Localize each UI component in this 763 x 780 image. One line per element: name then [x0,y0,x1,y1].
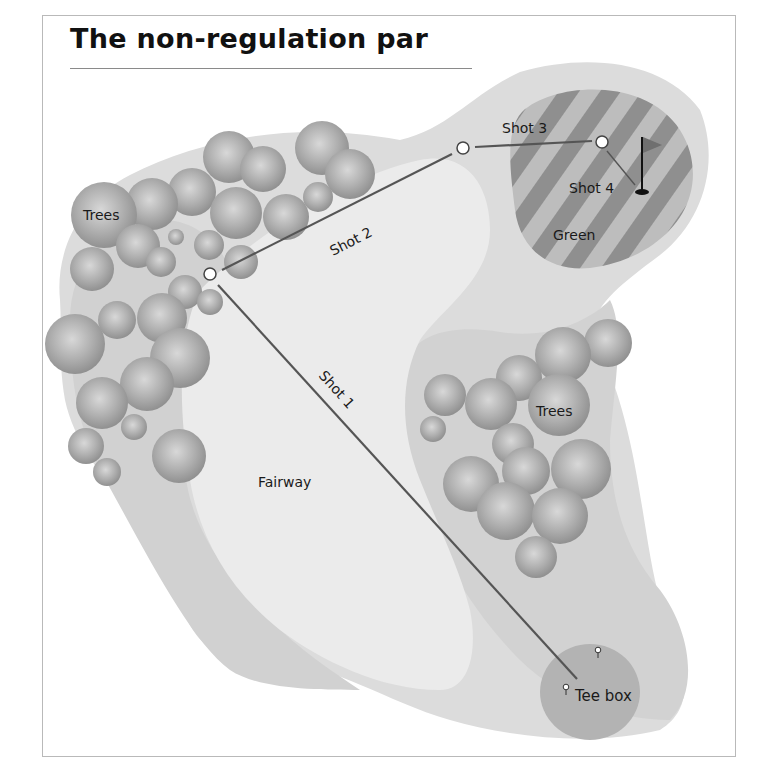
tree-icon [197,289,223,315]
tree-icon [303,182,333,212]
tree-icon [98,301,136,339]
tree-icon [210,187,262,239]
fairway-label: Fairway [258,474,311,490]
shot-3-label: Shot 3 [502,120,547,136]
tree-icon [477,482,535,540]
tree-icon [325,149,375,199]
tree-icon [424,374,466,416]
ball-marker-icon [204,268,216,280]
shot-4-label: Shot 4 [569,180,614,196]
tree-icon [532,488,588,544]
tree-icon [68,428,104,464]
tree-icon [120,357,174,411]
golf-hole-map: Trees Trees Fairway Green Tee box Shot 3… [0,0,763,780]
tree-icon [194,230,224,260]
green-label: Green [553,227,595,243]
tree-icon [76,377,128,429]
tree-icon [515,536,557,578]
tree-icon [584,319,632,367]
tree-icon [168,229,184,245]
tree-icon [465,378,517,430]
tree-icon [240,146,286,192]
ball-marker-icon [596,136,608,148]
tree-icon [45,314,105,374]
tree-icon [152,429,206,483]
tee-box-label: Tee box [574,687,632,705]
trees-right-label: Trees [535,403,572,419]
trees-left-label: Trees [82,207,119,223]
tree-icon [93,458,121,486]
tree-icon [224,245,258,279]
tree-icon [121,414,147,440]
tree-icon [70,247,114,291]
ball-marker-icon [457,142,469,154]
tree-icon [420,416,446,442]
tree-icon [146,247,176,277]
tree-icon [263,194,309,240]
